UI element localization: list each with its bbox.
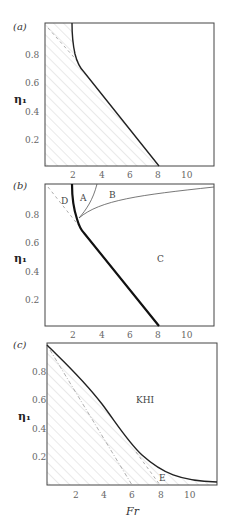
xtick-6-c: 6 <box>129 490 135 500</box>
ytick-0.4-a: 0.4 <box>25 107 40 117</box>
region-label-khi: KHI <box>136 395 155 405</box>
ylabel-b: η₁ <box>14 252 27 265</box>
ytick-0.6-c: 0.6 <box>32 395 47 405</box>
xtick-8-c: 8 <box>158 490 164 500</box>
ylabel-a: η₁ <box>14 93 27 106</box>
xtick-6-a: 6 <box>127 170 133 180</box>
xtick-2-a: 2 <box>70 170 76 180</box>
stable-region-hatch-c <box>47 346 217 485</box>
ylabel-c: η₁ <box>18 410 31 423</box>
ytick-0.4-b: 0.4 <box>25 267 40 277</box>
panel-label-a: (a) <box>13 21 27 32</box>
region-label-b: B <box>109 190 116 200</box>
ytick-0.6-b: 0.6 <box>25 238 40 248</box>
xtick-8-b: 8 <box>155 330 161 340</box>
panel-c: (c) KHI E 0.8 0.6 0.4 0.2 η₁ 2 4 6 8 10 … <box>13 339 217 518</box>
xtick-4-c: 4 <box>101 490 107 500</box>
panel-label-c: (c) <box>13 339 27 350</box>
ytick-0.4-c: 0.4 <box>32 424 47 434</box>
region-label-c: C <box>157 254 164 264</box>
region-label-e: E <box>159 473 166 483</box>
xtick-6-b: 6 <box>127 330 133 340</box>
ytick-0.2-c: 0.2 <box>32 452 46 462</box>
region-label-d: D <box>61 196 68 206</box>
xtick-2-c: 2 <box>73 490 79 500</box>
ytick-0.2-a: 0.2 <box>25 135 39 145</box>
ytick-0.8-a: 0.8 <box>25 50 40 60</box>
xtick-10-a: 10 <box>181 170 193 180</box>
panel-a: (a) 0.8 0.6 0.4 0.2 η₁ 2 4 6 8 10 <box>13 21 214 180</box>
curve-bc-boundary <box>79 187 214 218</box>
ytick-0.8-b: 0.8 <box>25 210 40 220</box>
region-label-a: A <box>79 193 87 203</box>
figure: (a) 0.8 0.6 0.4 0.2 η₁ 2 4 6 8 10 (b) D … <box>0 0 227 530</box>
xtick-10-b: 10 <box>181 330 193 340</box>
xtick-8-a: 8 <box>155 170 161 180</box>
panel-b: (b) D A B C 0.8 0.6 0.4 0.2 η₁ 2 4 6 8 1… <box>13 180 214 340</box>
xlabel: Fr <box>125 505 140 518</box>
panel-label-b: (b) <box>13 180 27 191</box>
xtick-4-a: 4 <box>99 170 105 180</box>
ytick-0.8-c: 0.8 <box>32 367 47 377</box>
boundary-curve-b <box>72 184 159 326</box>
plot-frame-b <box>45 184 214 326</box>
ytick-0.2-b: 0.2 <box>25 295 39 305</box>
xtick-10-c: 10 <box>184 490 196 500</box>
ytick-0.6-a: 0.6 <box>25 78 40 88</box>
xtick-2-b: 2 <box>70 330 76 340</box>
xtick-4-b: 4 <box>99 330 105 340</box>
